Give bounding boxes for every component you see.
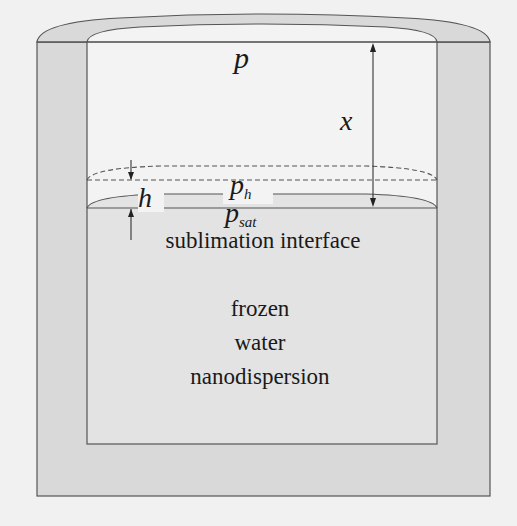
material-label-line1: frozen [231,296,290,321]
lid-inner-arc [87,24,437,42]
material-label-line3: nanodispersion [190,364,330,389]
interface-label: sublimation interface [166,228,361,253]
distance-label: x [339,105,353,136]
sublimation-diagram: p x ph h psat sublimation interface froz… [0,0,517,526]
top-pressure-label: p [232,41,249,74]
boundary-thickness-label: h [138,182,152,213]
material-label-line2: water [234,330,285,355]
